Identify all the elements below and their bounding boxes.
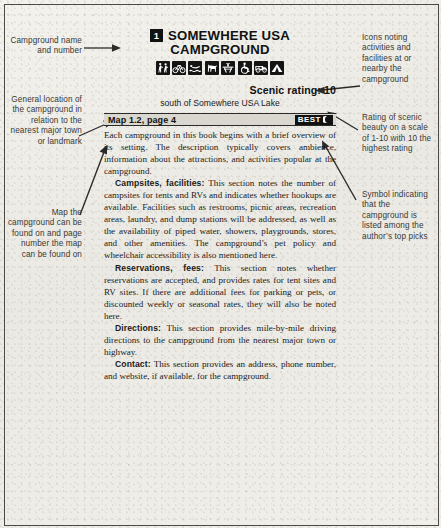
general-location: south of Somewhere USA Lake — [104, 98, 336, 108]
paragraph-overview: Each campground in this book begins with… — [104, 129, 336, 177]
paragraph-directions: Directions: This section provides mile-b… — [104, 322, 336, 358]
callout-map-page: Map the campground can be found on and p… — [6, 208, 82, 260]
paragraph-overview-text: Each campground in this book begins with… — [104, 130, 336, 176]
picnic-icon — [221, 61, 235, 75]
best-badge: BEST — [295, 115, 333, 125]
best-badge-label: BEST — [298, 116, 321, 124]
campground-number-badge: 1 — [150, 29, 163, 42]
paragraph-campsites: Campsites, facilities: This section note… — [104, 177, 336, 261]
wheelchair-icon — [238, 61, 252, 75]
paragraph-campsites-text: This section notes the number of campsit… — [104, 178, 336, 260]
pets-icon — [205, 61, 219, 75]
heading-campsites: Campsites, facilities: — [115, 178, 204, 188]
callout-icons: Icons noting activities and facilities a… — [362, 33, 436, 85]
map-page-label: Map 1.2, page 4 — [108, 115, 176, 125]
rv-icon — [254, 61, 268, 75]
biking-icon — [172, 61, 186, 75]
callout-scenic-rating: Rating of scenic beauty on a scale of 1-… — [362, 113, 436, 155]
swimming-icon — [188, 61, 202, 75]
heading-directions: Directions: — [115, 323, 161, 333]
campground-title-line2: CAMPGROUND — [104, 42, 336, 57]
campground-title-line1: SOMEWHERE USA — [168, 28, 290, 43]
callout-general-location: General location of the campground in re… — [6, 95, 82, 147]
scenic-rating: Scenic rating: 10 — [104, 84, 336, 96]
tent-icon — [270, 61, 284, 75]
hiking-icon — [156, 61, 170, 75]
callout-name-number: Campground name and number — [6, 36, 82, 57]
crescent-moon-icon — [323, 116, 330, 123]
paragraph-reservations: Reservations, fees: This section notes w… — [104, 262, 336, 322]
facility-icon-row — [104, 61, 336, 75]
heading-contact: Contact: — [115, 359, 151, 369]
heading-reservations: Reservations, fees: — [115, 263, 204, 273]
entry-header: 1 SOMEWHERE USA CAMPGROUND — [104, 28, 336, 57]
entry-description: Each campground in this book begins with… — [104, 129, 336, 382]
campground-entry: 1 SOMEWHERE USA CAMPGROUND — [104, 28, 336, 382]
paragraph-contact: Contact: This section provides an addres… — [104, 358, 336, 382]
callout-best-symbol: Symbol indicating that the campground is… — [362, 190, 436, 242]
map-reference-bar: Map 1.2, page 4 BEST — [104, 113, 336, 126]
